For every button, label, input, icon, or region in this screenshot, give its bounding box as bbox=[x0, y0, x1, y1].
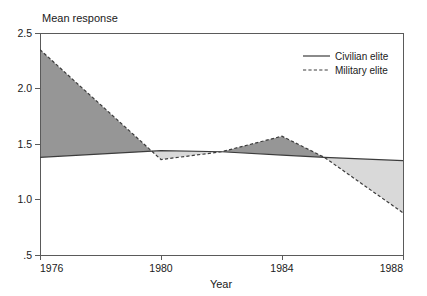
x-axis-label: Year bbox=[210, 278, 233, 290]
chart-legend: Civilian elite Military elite bbox=[303, 51, 389, 76]
x-tick-label: 1980 bbox=[149, 262, 173, 274]
chart-canvas: 2.52.01.51.0.5 1976198019841988 Mean res… bbox=[0, 0, 427, 296]
chart-figure: 2.52.01.51.0.5 1976198019841988 Mean res… bbox=[0, 0, 427, 296]
x-tick-label: 1988 bbox=[380, 262, 404, 274]
legend-label-military-elite: Military elite bbox=[335, 65, 388, 76]
y-tick-labels: 2.52.01.51.0.5 bbox=[17, 27, 32, 261]
x-tick-marks bbox=[40, 255, 403, 260]
x-tick-label: 1976 bbox=[40, 262, 64, 274]
fill-military-above bbox=[40, 50, 324, 158]
y-tick-label: 1.0 bbox=[17, 193, 32, 205]
x-tick-label: 1984 bbox=[270, 262, 294, 274]
x-tick-labels: 1976198019841988 bbox=[40, 262, 403, 274]
y-tick-label: 2.5 bbox=[17, 27, 32, 39]
y-tick-label: .5 bbox=[23, 249, 32, 261]
chart-title: Mean response bbox=[42, 12, 118, 24]
y-tick-label: 2.0 bbox=[17, 82, 32, 94]
y-tick-marks bbox=[35, 33, 40, 255]
legend-label-civilian-elite: Civilian elite bbox=[335, 51, 389, 62]
y-tick-label: 1.5 bbox=[17, 138, 32, 150]
fill-civilian-above bbox=[152, 151, 403, 213]
